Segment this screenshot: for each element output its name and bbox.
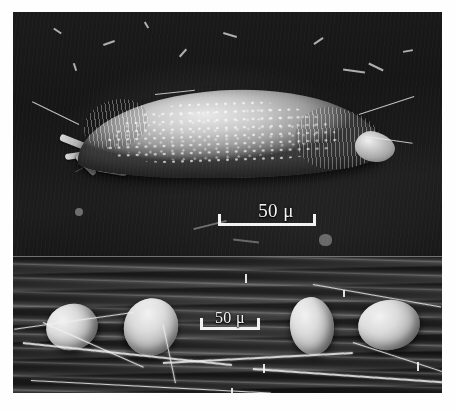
debris-fragment <box>313 37 323 45</box>
mite-leg <box>65 150 96 160</box>
mite-papillae <box>110 102 326 165</box>
debris-fragment <box>403 49 413 53</box>
mite-cuticular-striae <box>77 91 155 157</box>
debris-fragment <box>233 238 259 243</box>
mite-seta <box>359 96 414 115</box>
debris-fragment <box>368 63 383 72</box>
mite-cuticular-striae <box>292 104 384 175</box>
leaf-spine <box>417 362 419 371</box>
mite-seta <box>365 136 413 144</box>
mite-specimen <box>59 84 399 194</box>
debris-fragment <box>343 68 365 73</box>
mite-leg <box>59 134 95 154</box>
debris-fragment <box>319 234 332 246</box>
debris-fragment <box>103 40 115 46</box>
mite-seta <box>32 101 79 125</box>
leaf-spine <box>231 388 233 393</box>
mite-idiosoma <box>76 86 384 181</box>
debris-fragment <box>75 153 111 173</box>
leaf-spine <box>263 364 265 373</box>
scale-bar-lower-panel: 50 μ <box>200 304 260 330</box>
micrograph-plate: 50 μ 50 μ <box>13 12 442 393</box>
debris-fragment <box>75 208 83 216</box>
scale-bar-upper-panel: 50 μ <box>218 196 316 226</box>
leaf-spine <box>343 290 345 297</box>
leaf-spine <box>245 274 247 283</box>
mite-papillae <box>104 96 338 168</box>
mite-gnathosoma <box>352 128 398 167</box>
scale-bar-label: 50 μ <box>218 200 316 222</box>
debris-fragment <box>53 28 62 35</box>
debris-fragment <box>144 21 149 28</box>
scale-bar-label: 50 μ <box>200 309 260 327</box>
debris-fragment <box>223 32 237 38</box>
panel-divider <box>13 256 442 257</box>
mite-leg <box>75 154 97 177</box>
debris-fragment <box>73 63 77 71</box>
figure-page: 50 μ 50 μ <box>0 0 455 411</box>
mite-leg <box>97 165 128 176</box>
debris-fragment <box>179 49 187 58</box>
mite-seta <box>155 90 195 95</box>
